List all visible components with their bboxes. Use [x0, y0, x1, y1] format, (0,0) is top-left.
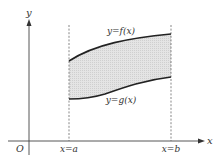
upper-curve-label: y=f(x)	[106, 26, 136, 36]
upper-bound-label: x=b	[162, 144, 181, 154]
y-axis-arrow-icon	[27, 19, 32, 26]
x-axis-arrow-icon	[198, 139, 205, 144]
lower-bound-label: x=a	[60, 144, 78, 154]
x-axis-label: x	[207, 135, 213, 146]
area-between-curves-diagram: y x O x=a x=b y=f(x) y=g(x)	[0, 0, 223, 167]
lower-curve-label: y=g(x)	[105, 95, 137, 105]
y-axis-label: y	[25, 7, 32, 18]
origin-label: O	[16, 143, 24, 154]
